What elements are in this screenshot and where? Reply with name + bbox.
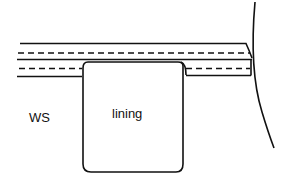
fold-top-edge	[20, 44, 252, 59]
diagram-lines	[0, 0, 289, 180]
label-lining: lining	[112, 106, 142, 121]
label-wrong-side: WS	[29, 110, 50, 125]
sewing-diagram: WS lining	[0, 0, 289, 180]
garment-edge-curve	[253, 2, 274, 148]
